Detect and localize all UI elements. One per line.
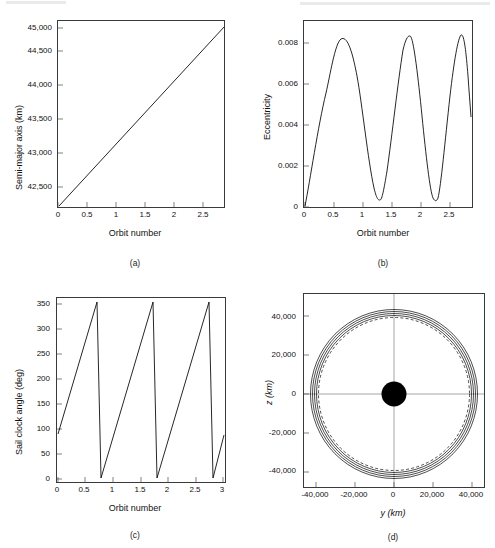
panel-a-ytick-5: 45,000 xyxy=(12,23,52,32)
panel-b-xtick-3: 1.5 xyxy=(385,210,396,219)
panel-d-central-body xyxy=(382,382,407,407)
panel-a-plot-area xyxy=(57,20,225,208)
panel-a-xtick-3: 1.5 xyxy=(139,210,150,219)
panel-b-x-axis-label: Orbit number xyxy=(283,228,483,238)
panel-b-ticks xyxy=(304,43,450,207)
panel-a-ytick-0: 42,500 xyxy=(12,182,52,191)
panel-a-ytick-4: 44,500 xyxy=(12,46,52,55)
panel-d: z (km) -40,000 -20,000 0 20,000 40,000 xyxy=(248,275,495,548)
panel-d-plot-area xyxy=(303,293,485,488)
panel-c-xtick-1: 0.5 xyxy=(78,485,89,494)
panel-b-y-axis-label: Eccentricity xyxy=(262,94,272,140)
panel-d-ytick-4: 40,000 xyxy=(252,312,296,321)
panel-d-ytick-2: 0 xyxy=(252,389,296,398)
panel-b-ytick-0: 0 xyxy=(258,202,298,211)
panel-a-ytick-1: 43,000 xyxy=(12,148,52,157)
panel-a-xtick-1: 0.5 xyxy=(81,210,92,219)
panel-a-ytick-2: 43,500 xyxy=(12,114,52,123)
panel-d-x-axis-label: y (km) xyxy=(293,508,493,518)
panel-d-caption: (d) xyxy=(293,532,493,542)
panel-a-xtick-0: 0 xyxy=(56,210,60,219)
panel-b-xtick-0: 0 xyxy=(302,210,306,219)
panel-d-ytick-0: -40,000 xyxy=(252,466,296,475)
panel-d-xtick-0: -40,000 xyxy=(301,490,328,499)
panel-c-ytick-3: 150 xyxy=(16,399,50,408)
panel-d-xtick-4: 40,000 xyxy=(459,490,483,499)
panel-c-plot-area xyxy=(56,297,226,483)
panel-b-caption: (b) xyxy=(283,258,483,268)
panel-b-plot-area xyxy=(303,20,473,208)
panel-c-xtick-4: 2 xyxy=(165,485,169,494)
panel-b-xtick-2: 1 xyxy=(360,210,364,219)
panel-c-ticks xyxy=(57,304,223,482)
panel-a-ticks xyxy=(58,28,203,207)
panel-c: Sail clock angle (deg) 0 50 100 150 200 … xyxy=(0,275,247,548)
panel-a-line-semimajor-axis xyxy=(59,27,224,206)
panel-c-ytick-7: 350 xyxy=(16,299,50,308)
panel-c-ytick-6: 300 xyxy=(16,324,50,333)
panel-a-xtick-4: 2 xyxy=(172,210,176,219)
panel-d-xtick-1: -20,000 xyxy=(340,490,367,499)
panel-a-xtick-2: 1 xyxy=(114,210,118,219)
panel-c-xtick-0: 0 xyxy=(55,485,59,494)
panel-d-ytick-1: -20,000 xyxy=(252,428,296,437)
panel-c-ytick-2: 100 xyxy=(16,424,50,433)
panel-c-ytick-4: 200 xyxy=(16,374,50,383)
panel-b-xtick-5: 2.5 xyxy=(443,210,454,219)
panel-b-ytick-1: 0.002 xyxy=(258,161,298,170)
panel-d-xtick-3: 20,000 xyxy=(420,490,444,499)
panel-b-xtick-4: 2 xyxy=(418,210,422,219)
panel-a-caption: (a) xyxy=(35,258,235,268)
panel-b-ytick-2: 0.004 xyxy=(258,120,298,129)
panel-b-line-eccentricity xyxy=(305,35,471,206)
panel-b-xtick-1: 0.5 xyxy=(327,210,338,219)
panel-b-ytick-3: 0.006 xyxy=(258,79,298,88)
figure-four-panel: Semi-major axis (km) 42,500 43,000 43,50… xyxy=(0,0,495,548)
panel-c-xtick-2: 1 xyxy=(110,485,114,494)
panel-a-xtick-5: 2.5 xyxy=(197,210,208,219)
panel-d-xtick-2: 0 xyxy=(391,490,395,499)
panel-b-ytick-4: 0.008 xyxy=(258,38,298,47)
panel-c-caption: (c) xyxy=(35,530,235,540)
panel-a-x-axis-label: Orbit number xyxy=(35,228,235,238)
panel-b: Eccentricity 0 0.002 0.004 0.006 0.008 xyxy=(248,0,495,274)
panel-a: Semi-major axis (km) 42,500 43,000 43,50… xyxy=(0,0,247,274)
panel-c-xtick-6: 3 xyxy=(220,485,224,494)
panel-c-line-sail-clock-angle xyxy=(58,302,224,478)
panel-d-ytick-3: 20,000 xyxy=(252,350,296,359)
panel-a-ytick-3: 44,000 xyxy=(12,80,52,89)
panel-c-ytick-5: 250 xyxy=(16,349,50,358)
panel-c-ytick-0: 0 xyxy=(16,474,50,483)
panel-c-ytick-1: 50 xyxy=(16,449,50,458)
panel-c-xtick-3: 1.5 xyxy=(134,485,145,494)
panel-c-xtick-5: 2.5 xyxy=(189,485,200,494)
panel-c-x-axis-label: Orbit number xyxy=(35,503,235,513)
